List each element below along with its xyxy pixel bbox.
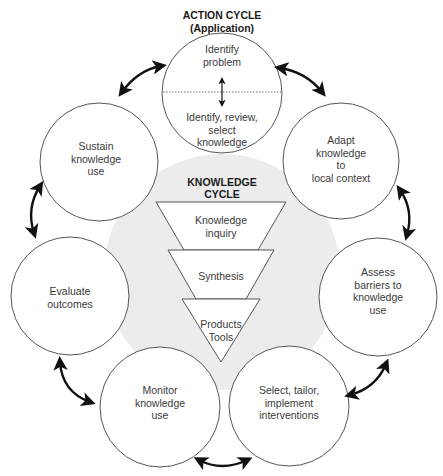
label-line: Identify, review, xyxy=(167,111,277,124)
label-line: Tools xyxy=(171,331,271,344)
label-line: Evaluate xyxy=(20,285,120,298)
label-line: implement xyxy=(234,397,344,410)
label-line: Products xyxy=(171,318,271,331)
label-identify-problem: Identify problem xyxy=(172,43,272,68)
label-evaluate: Evaluate outcomes xyxy=(20,285,120,310)
arrow-evaluate-sustain xyxy=(31,186,40,233)
label-line: Knowledge xyxy=(171,214,271,227)
label-products-tools: Products Tools xyxy=(171,318,271,343)
label-line: barriers to xyxy=(328,279,428,292)
arrow-adapt-assess xyxy=(400,190,409,235)
label-line: knowledge xyxy=(328,291,428,304)
label-line: use xyxy=(328,304,428,317)
label-adapt: Adapt knowledge to local context xyxy=(291,134,391,184)
label-line: inquiry xyxy=(171,227,271,240)
arrow-assess-select xyxy=(350,364,386,395)
label-select: Select, tailor, implement interventions xyxy=(234,384,344,422)
label-knowledge-inquiry: Knowledge inquiry xyxy=(171,214,271,239)
label-line: use xyxy=(46,165,146,178)
label-line: Synthesis xyxy=(171,270,271,283)
label-line: local context xyxy=(291,172,391,185)
label-line: use xyxy=(110,409,210,422)
arrow-top-adapt xyxy=(280,68,322,92)
label-line: Adapt xyxy=(291,134,391,147)
label-line: problem xyxy=(172,56,272,69)
arrow-select-monitor xyxy=(199,460,247,466)
action-cycle-title-text: ACTION CYCLE xyxy=(162,9,282,22)
label-line: select xyxy=(167,124,277,137)
knowledge-cycle-title-line1: KNOWLEDGE xyxy=(172,176,272,188)
label-line: knowledge xyxy=(167,136,277,149)
label-line: Monitor xyxy=(110,384,210,397)
label-line: outcomes xyxy=(20,298,120,311)
label-line: Identify xyxy=(172,43,272,56)
arrow-sustain-top xyxy=(122,66,161,92)
label-monitor: Monitor knowledge use xyxy=(110,384,210,422)
label-line: knowledge xyxy=(291,147,391,160)
label-line: knowledge xyxy=(110,397,210,410)
action-cycle-title: ACTION CYCLE (Application) xyxy=(162,9,282,35)
action-cycle-subtitle: (Application) xyxy=(162,22,282,35)
knowledge-cycle-title-line2: CYCLE xyxy=(172,188,272,200)
arrow-monitor-evaluate xyxy=(60,362,90,402)
label-line: Select, tailor, xyxy=(234,384,344,397)
label-sustain: Sustain knowledge use xyxy=(46,140,146,178)
label-line: Sustain xyxy=(46,140,146,153)
label-assess: Assess barriers to knowledge use xyxy=(328,266,428,316)
label-identify-knowledge: Identify, review, select knowledge xyxy=(167,111,277,149)
label-synthesis: Synthesis xyxy=(171,270,271,283)
label-line: Assess xyxy=(328,266,428,279)
knowledge-cycle-title: KNOWLEDGE CYCLE xyxy=(172,176,272,200)
label-line: knowledge xyxy=(46,153,146,166)
label-line: to xyxy=(291,159,391,172)
label-line: interventions xyxy=(234,409,344,422)
